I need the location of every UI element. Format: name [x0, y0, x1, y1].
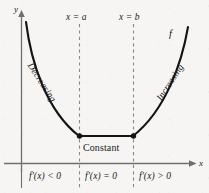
y-axis-label: y: [14, 5, 18, 14]
cut-line-label-b: x = b: [119, 13, 140, 23]
critical-point-b: [131, 133, 136, 138]
derivative-sign-diagram: y x x = a x = b f Decreasing Increasing …: [0, 0, 209, 193]
critical-point-a: [77, 133, 82, 138]
plot-canvas: [0, 0, 209, 193]
x-axis: [4, 160, 197, 167]
derivative-region-positive: f'(x) > 0: [139, 172, 171, 182]
derivative-region-zero: f'(x) = 0: [85, 172, 117, 182]
constant-label: Constant: [83, 143, 119, 153]
y-axis: [18, 10, 25, 172]
derivative-region-negative: f'(x) < 0: [29, 172, 61, 182]
function-label-f: f: [169, 29, 172, 40]
x-axis-label: x: [199, 159, 203, 168]
function-curve: [26, 22, 188, 136]
cut-line-label-a: x = a: [66, 13, 87, 23]
